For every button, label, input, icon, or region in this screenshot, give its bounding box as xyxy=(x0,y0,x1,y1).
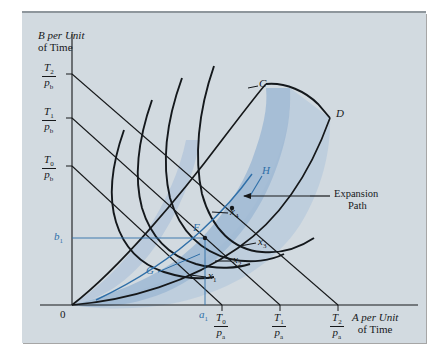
isoquant-label-x1: x1 xyxy=(208,270,216,285)
y-tick-T2-pb: T2 pb xyxy=(42,62,56,91)
leader-C xyxy=(248,86,258,88)
expansion-path-line1: Expansion xyxy=(334,188,378,199)
x-axis-title: A per Unit of Time xyxy=(352,312,398,335)
isoquant-label-x3: x3 xyxy=(258,236,266,251)
point-label-F: F xyxy=(193,222,200,234)
isoquant-label-x4: x4 xyxy=(230,206,238,221)
b1-axis-label: b1 xyxy=(54,231,63,246)
y-axis-title-line2: of Time xyxy=(38,41,73,53)
diagram-canvas xyxy=(0,0,448,359)
expansion-path-annotation: Expansion Path xyxy=(334,188,378,212)
x-tick-T1-pa: T1 pa xyxy=(272,312,286,341)
x-axis-title-line2: of Time xyxy=(358,323,393,335)
isoquant-label-x2: x2 xyxy=(233,254,241,269)
point-label-D: D xyxy=(336,108,344,120)
y-tick-T1-pb: T1 pb xyxy=(42,106,56,135)
origin-label: 0 xyxy=(60,309,66,321)
a1-axis-label: a1 xyxy=(199,309,208,324)
y-axis-title: B per Unit of Time xyxy=(38,30,84,53)
point-label-G: G xyxy=(146,265,154,277)
x-axis-title-line1: A per Unit xyxy=(352,311,398,323)
y-axis-title-line1: B per Unit xyxy=(38,29,84,41)
point-label-C: C xyxy=(259,78,266,90)
expansion-path-line2: Path xyxy=(334,200,367,212)
point-label-H: H xyxy=(262,165,270,177)
figure-container: B per Unit of Time A per Unit of Time T2… xyxy=(0,0,448,359)
point-marker-F xyxy=(203,236,207,240)
y-tick-T0-pb: T0 pb xyxy=(42,154,56,183)
x-tick-T2-pa: T2 pa xyxy=(330,312,344,341)
x-tick-T0-pa: T0 pa xyxy=(214,312,228,341)
